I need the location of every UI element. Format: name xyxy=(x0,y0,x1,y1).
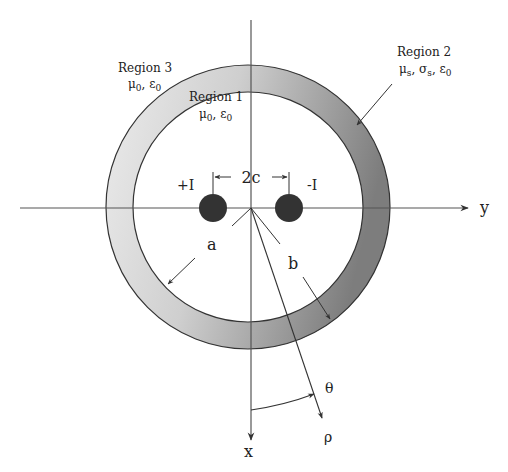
wire-plus-i xyxy=(199,194,227,222)
theta-label: θ xyxy=(325,380,333,396)
shield-ring xyxy=(106,65,390,349)
rho-label: ρ xyxy=(324,429,332,445)
plus-i-label: +I xyxy=(177,177,194,193)
svg-text:μs, σs, ε0: μs, σs, ε0 xyxy=(399,62,452,78)
y-axis-label: y xyxy=(479,198,489,217)
coaxial-shield-diagram: 2c +I -I a b y x θ ρ Region 3 μ0, ε0 Reg… xyxy=(0,0,508,472)
outer-radius-label: b xyxy=(288,254,298,273)
svg-text:Region 1: Region 1 xyxy=(189,90,243,104)
svg-text:Region 2: Region 2 xyxy=(397,45,451,59)
theta-arc xyxy=(251,394,314,410)
a-leader-line xyxy=(232,208,251,226)
region2-annotation: Region 2 μs, σs, ε0 xyxy=(397,45,452,78)
b-leader-line xyxy=(251,208,280,244)
svg-text:μ0, ε0: μ0, ε0 xyxy=(128,77,161,93)
inner-boundary-a xyxy=(133,92,363,322)
a-arrow xyxy=(168,258,195,284)
svg-text:μ0, ε0: μ0, ε0 xyxy=(199,107,232,123)
x-axis-label: x xyxy=(244,442,253,461)
wire-minus-i xyxy=(275,194,303,222)
inner-radius-label: a xyxy=(207,235,217,254)
region3-annotation: Region 3 μ0, ε0 xyxy=(118,61,172,93)
region1-annotation: Region 1 μ0, ε0 xyxy=(189,90,243,123)
separation-label: 2c xyxy=(241,168,260,187)
svg-text:Region 3: Region 3 xyxy=(118,61,172,75)
minus-i-label: -I xyxy=(307,177,317,193)
region2-arrow xyxy=(357,84,392,125)
